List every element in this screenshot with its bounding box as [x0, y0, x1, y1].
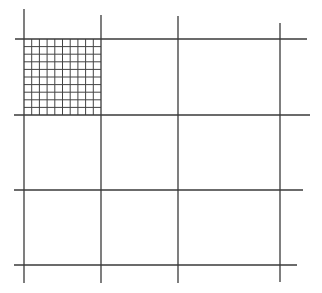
grid-diagram [0, 0, 322, 293]
fine-grid-subdivision [24, 39, 101, 115]
major-grid-lines [14, 9, 310, 283]
